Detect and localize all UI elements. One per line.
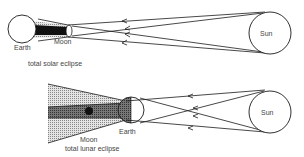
- moon-top: [66, 25, 72, 37]
- lunar-eclipse-diagram: [48, 84, 291, 143]
- earth-top: [8, 15, 36, 43]
- solar-eclipse-caption: total solar eclipse: [28, 60, 82, 67]
- moon-bottom: [85, 107, 93, 115]
- lunar-rays: [126, 90, 265, 132]
- moon-label-bottom: Moon: [80, 136, 98, 143]
- earth-label-top: Earth: [14, 44, 31, 51]
- moon-label-top: Moon: [54, 38, 72, 45]
- sun-label-bottom: Sun: [261, 109, 273, 116]
- earth-label-bottom: Earth: [119, 128, 136, 135]
- eclipse-diagram: [0, 0, 304, 157]
- solar-eclipse-diagram: [8, 12, 291, 54]
- lunar-eclipse-caption: total lunar eclipse: [65, 145, 119, 152]
- sun-label-top: Sun: [260, 30, 272, 37]
